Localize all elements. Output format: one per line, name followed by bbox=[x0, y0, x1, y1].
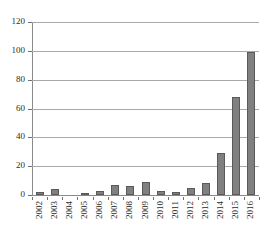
x-axis-line bbox=[32, 195, 259, 196]
x-axis-label-2016: 2016 bbox=[246, 201, 255, 219]
x-tick-mark bbox=[62, 197, 63, 200]
x-axis-label-2007: 2007 bbox=[110, 201, 119, 219]
x-tick-mark bbox=[77, 197, 78, 200]
x-tick-mark bbox=[32, 197, 33, 200]
x-tick-mark bbox=[108, 197, 109, 200]
y-tick-label-60: 60 bbox=[0, 104, 25, 113]
bar bbox=[142, 182, 150, 195]
x-tick-mark bbox=[214, 197, 215, 200]
bar bbox=[81, 193, 89, 195]
bar bbox=[36, 192, 44, 195]
x-axis-label-2008: 2008 bbox=[125, 201, 134, 219]
x-tick-mark bbox=[47, 197, 48, 200]
bar bbox=[232, 97, 240, 195]
bar bbox=[247, 52, 255, 195]
x-tick-mark bbox=[153, 197, 154, 200]
x-axis-label-2002: 2002 bbox=[35, 201, 44, 219]
y-tick-label-80: 80 bbox=[0, 75, 25, 84]
bar bbox=[217, 153, 225, 195]
x-axis-label-2015: 2015 bbox=[231, 201, 240, 219]
y-tick-label-40: 40 bbox=[0, 132, 25, 141]
x-tick-mark bbox=[138, 197, 139, 200]
bar bbox=[187, 188, 195, 195]
y-tick-label-0: 0 bbox=[0, 190, 25, 199]
x-axis-label-2006: 2006 bbox=[95, 201, 104, 219]
x-tick-mark bbox=[229, 197, 230, 200]
x-axis-label-2013: 2013 bbox=[201, 201, 210, 219]
bar bbox=[157, 191, 165, 195]
x-axis-labels: 2002200320042005200620072008200920102011… bbox=[32, 197, 259, 247]
y-tick-label-20: 20 bbox=[0, 161, 25, 170]
x-axis-label-2003: 2003 bbox=[50, 201, 59, 219]
x-tick-mark bbox=[259, 197, 260, 200]
bar-chart: 020406080100120 200220032004200520062007… bbox=[0, 0, 270, 250]
y-tick-label-100: 100 bbox=[0, 46, 25, 55]
x-axis-label-2012: 2012 bbox=[186, 201, 195, 219]
bar bbox=[51, 189, 59, 195]
x-axis-label-2010: 2010 bbox=[156, 201, 165, 219]
bar bbox=[202, 183, 210, 195]
x-tick-mark bbox=[244, 197, 245, 200]
x-tick-mark bbox=[198, 197, 199, 200]
x-axis-label-2014: 2014 bbox=[216, 201, 225, 219]
bar bbox=[96, 191, 104, 195]
bar bbox=[126, 186, 134, 195]
bar bbox=[172, 192, 180, 195]
x-tick-mark bbox=[123, 197, 124, 200]
x-tick-mark bbox=[168, 197, 169, 200]
x-tick-mark bbox=[183, 197, 184, 200]
x-axis-label-2009: 2009 bbox=[141, 201, 150, 219]
bar bbox=[111, 185, 119, 195]
y-tick-label-120: 120 bbox=[0, 17, 25, 26]
y-tick-mark-0 bbox=[28, 195, 32, 196]
bars-layer bbox=[32, 22, 259, 195]
x-axis-label-2004: 2004 bbox=[65, 201, 74, 219]
x-axis-label-2005: 2005 bbox=[80, 201, 89, 219]
x-tick-mark bbox=[93, 197, 94, 200]
x-axis-label-2011: 2011 bbox=[171, 201, 180, 219]
